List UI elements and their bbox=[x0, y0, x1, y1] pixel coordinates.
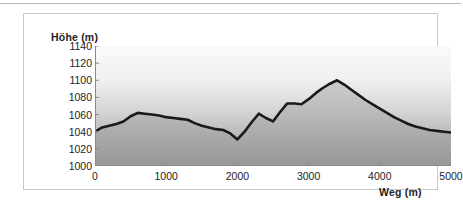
y-tick-label-1000: 1000 bbox=[56, 161, 92, 171]
y-tick-label-1100: 1100 bbox=[56, 75, 92, 85]
x-tick-label-1000: 1000 bbox=[155, 171, 178, 182]
x-tick-label-4000: 4000 bbox=[368, 171, 391, 182]
y-tick-label-1140: 1140 bbox=[56, 41, 92, 51]
y-tick-label-1020: 1020 bbox=[56, 144, 92, 154]
x-tick-label-0: 0 bbox=[92, 171, 98, 182]
elevation-profile-chart bbox=[95, 46, 451, 166]
x-axis-tick-labels: 010002000300040005000 bbox=[95, 171, 451, 185]
y-tick-label-1080: 1080 bbox=[56, 92, 92, 102]
y-tick-label-1060: 1060 bbox=[56, 110, 92, 120]
y-tick-label-1120: 1120 bbox=[56, 58, 92, 68]
y-tick-label-1040: 1040 bbox=[56, 127, 92, 137]
chart-panel: Höhe (m) 1000102010401060108011001120114… bbox=[23, 13, 438, 190]
x-axis-title: Weg (m) bbox=[379, 186, 422, 198]
plot-area bbox=[95, 46, 451, 166]
x-tick-label-3000: 3000 bbox=[297, 171, 320, 182]
y-axis-tick-labels: 10001020104010601080110011201140 bbox=[54, 46, 92, 166]
x-tick-label-2000: 2000 bbox=[226, 171, 249, 182]
x-tick-label-5000: 5000 bbox=[439, 171, 462, 182]
page-divider-rule bbox=[0, 3, 461, 4]
